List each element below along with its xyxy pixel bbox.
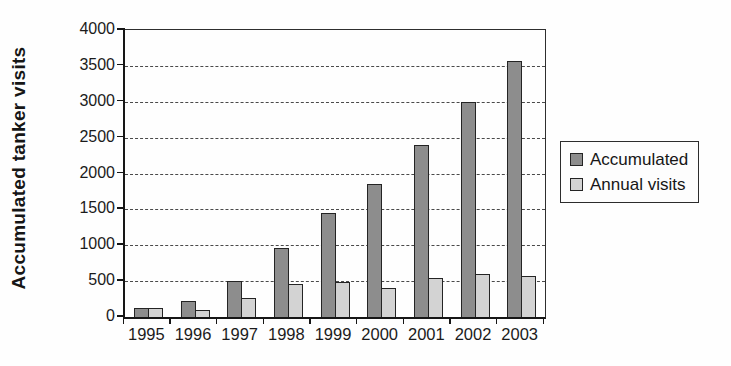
x-tick-label-1997: 1997: [221, 325, 258, 343]
bar-accumulated-2001: [414, 145, 429, 317]
bar-group-1996: [172, 30, 219, 317]
y-tick-label-3500: 3500: [63, 56, 115, 74]
bar-accumulated-2000: [367, 184, 382, 317]
bar-group-1998: [265, 30, 312, 317]
bar-annual-visits-2001: [428, 278, 443, 317]
bar-accumulated-1996: [181, 301, 196, 318]
accumulated-swatch-icon: [570, 153, 583, 166]
bar-annual-visits-2002: [475, 274, 490, 317]
legend-item-annual-visits: Annual visits: [570, 176, 689, 194]
legend: Accumulated Annual visits: [560, 141, 699, 203]
bar-annual-visits-1997: [241, 298, 256, 317]
y-axis-title: Accumulated tanker visits: [8, 47, 30, 290]
bar-series: [125, 30, 545, 317]
bar-annual-visits-1996: [195, 310, 210, 317]
plot-area: [123, 29, 546, 319]
y-tick-label-500: 500: [63, 271, 115, 289]
legend-item-accumulated: Accumulated: [570, 151, 689, 169]
bar-annual-visits-1999: [335, 282, 350, 317]
x-tick-label-1995: 1995: [128, 325, 165, 343]
chart-figure: Accumulated tanker visits 05001000150020…: [0, 0, 731, 366]
bar-annual-visits-1995: [148, 308, 163, 317]
legend-label-annual-visits: Annual visits: [590, 176, 685, 194]
bar-accumulated-1995: [134, 308, 149, 317]
x-tick-label-1999: 1999: [315, 325, 352, 343]
bar-accumulated-2002: [461, 102, 476, 317]
bar-accumulated-2003: [507, 61, 522, 317]
legend-label-accumulated: Accumulated: [590, 151, 688, 169]
y-tick-label-0: 0: [63, 307, 115, 325]
bar-accumulated-1998: [274, 248, 289, 317]
bar-group-1997: [218, 30, 265, 317]
bar-group-2002: [452, 30, 499, 317]
annual-visits-swatch-icon: [570, 178, 583, 191]
y-tick-label-3000: 3000: [63, 92, 115, 110]
x-tick-label-1996: 1996: [175, 325, 212, 343]
bar-group-1995: [125, 30, 172, 317]
bar-annual-visits-2000: [381, 288, 396, 317]
bar-group-2000: [358, 30, 405, 317]
bar-annual-visits-2003: [521, 276, 536, 317]
x-tick-label-1998: 1998: [268, 325, 305, 343]
x-tick-label-2003: 2003: [501, 325, 538, 343]
y-tick-label-1500: 1500: [63, 199, 115, 217]
bar-accumulated-1999: [321, 213, 336, 317]
bar-group-2001: [405, 30, 452, 317]
x-tick-label-2001: 2001: [408, 325, 445, 343]
y-tick-label-2500: 2500: [63, 128, 115, 146]
bar-annual-visits-1998: [288, 284, 303, 317]
y-tick-label-2000: 2000: [63, 164, 115, 182]
bar-group-2003: [498, 30, 545, 317]
bar-group-1999: [312, 30, 359, 317]
x-tick-label-2002: 2002: [455, 325, 492, 343]
y-tick-label-1000: 1000: [63, 235, 115, 253]
x-tick-label-2000: 2000: [361, 325, 398, 343]
y-tick-label-4000: 4000: [63, 20, 115, 38]
bar-accumulated-1997: [227, 281, 242, 317]
